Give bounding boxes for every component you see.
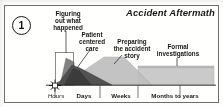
annotation-preparing-the-accident-story: Preparing the accident story [107,38,157,60]
figure-title: Accident Aftermath [126,7,215,18]
annotation-figuring-out-what-happened: Figuring out what happened [45,10,91,32]
axis-band-label-weeks: Weeks [102,92,140,99]
panel-number-value: 1 [19,20,25,31]
axis-band-label-months-to-years: Months to years [142,92,208,99]
accident-event-starburst-icon [49,80,61,92]
panel-number-badge: 1 [12,16,31,35]
accident-aftermath-figure: Accident Aftermath 1 [0,0,223,107]
annotation-formal-investigations: Formal investigations [152,43,204,57]
annotation-patient-centered-care: Patient centered care [72,31,112,53]
axis-band-label-hours: Hours [44,92,68,99]
axis-band-label-days: Days [68,92,100,99]
